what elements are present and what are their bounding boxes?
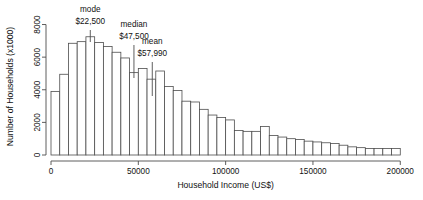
histogram-bar [112,52,121,155]
histogram-bar [339,145,348,155]
histogram-bar [322,143,331,155]
y-axis-tick-label: 4000 [33,80,42,99]
histogram-bar [77,42,86,155]
histogram-bar [217,117,226,155]
histogram-bar [68,43,77,155]
x-axis-tick-label: 0 [49,167,54,176]
histogram-bar [51,91,60,155]
histogram-bar [103,47,112,155]
x-axis-title: Household Income (US$) [177,180,274,190]
x-axis-tick-label: 100000 [212,167,240,176]
y-axis-tick-label: 2000 [33,113,42,132]
y-axis-tick-label: 0 [33,152,42,157]
histogram-bar [261,126,270,155]
histogram-bar [191,102,200,155]
histogram-bar [156,71,165,155]
histogram-bar [226,120,235,155]
histogram-bar [173,91,182,155]
y-axis-tick-label: 8000 [33,15,42,34]
x-axis-tick-label: 200000 [387,167,415,176]
histogram-bar [95,42,104,155]
histogram-bar [313,142,322,155]
histogram-bar [357,148,366,155]
histogram-bar [304,141,313,155]
histogram-bar [182,101,191,155]
histogram-bar [121,58,130,155]
histogram-bar [287,139,296,155]
histogram-bar [243,131,252,155]
histogram-bar [392,148,401,155]
histogram-bar [374,148,383,155]
histogram-bar [199,109,208,155]
y-axis-title: Number of Households (x1000) [5,27,15,147]
household-income-histogram: 02000400060008000Number of Households (x… [0,0,423,200]
annotation-label-median: median [121,20,148,29]
histogram-bar [330,144,339,155]
histogram-figure: 02000400060008000Number of Households (x… [0,0,423,200]
histogram-bar [383,148,392,155]
histogram-bar [165,87,174,156]
histogram-bar [365,148,374,155]
y-axis-tick-label: 6000 [33,48,42,67]
histogram-bar [147,79,156,155]
x-axis-tick-label: 50000 [127,167,150,176]
annotation-label-mean: mean [142,37,163,46]
histogram-bar [138,69,147,155]
histogram-bar [252,131,261,155]
histogram-bar [86,37,95,155]
annotation-value-mode: $22,500 [75,17,105,26]
histogram-bar [60,74,69,155]
histogram-bar [295,140,304,155]
annotation-value-mean: $57,990 [137,49,167,58]
histogram-bar [348,147,357,155]
x-axis-tick-label: 150000 [299,167,327,176]
histogram-bar [130,73,139,155]
histogram-bar [278,137,287,155]
histogram-bar [208,115,217,155]
histogram-bar [234,131,243,155]
histogram-bar [269,135,278,155]
annotation-label-mode: mode [80,5,101,14]
